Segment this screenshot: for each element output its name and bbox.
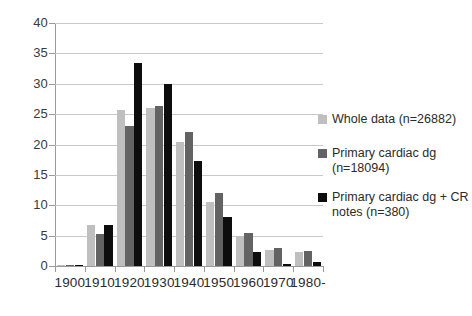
bar-group [263, 23, 293, 266]
bar-group [115, 23, 145, 266]
bar [304, 251, 312, 266]
bar [176, 142, 184, 266]
y-axis-tick-label: 0 [8, 259, 48, 272]
chart-legend: Whole data (n=26882) Primary cardiac dg … [318, 112, 470, 234]
x-axis-tick [234, 266, 235, 272]
bar [164, 84, 172, 266]
x-axis-tick [293, 266, 294, 272]
bar [265, 250, 273, 266]
legend-entry-whole-data: Whole data (n=26882) [318, 112, 470, 128]
bar-group [55, 23, 85, 266]
legend-entry-primary-cardiac-dg: Primary cardiac dg (n=18094) [318, 146, 470, 177]
legend-swatch-icon [318, 149, 327, 158]
bar [274, 248, 282, 266]
bar [134, 63, 142, 267]
y-axis-tick-label: 25 [8, 107, 48, 120]
bar-group [85, 23, 115, 266]
x-axis-tick [204, 266, 205, 272]
bar [236, 236, 244, 266]
x-axis-tick [323, 266, 324, 272]
legend-swatch-icon [318, 193, 327, 202]
bar [66, 265, 74, 266]
x-axis-tick [144, 266, 145, 272]
legend-label: Primary cardiac dg [332, 146, 436, 160]
bar [313, 262, 321, 266]
legend-label: Whole data (n=26882) [332, 112, 456, 126]
x-axis-tick [55, 266, 56, 272]
bar [117, 110, 125, 266]
bar [146, 108, 154, 266]
bar [223, 217, 231, 266]
y-axis-tick-label: 5 [8, 229, 48, 242]
gridline [55, 266, 323, 267]
bar [253, 252, 261, 266]
y-axis-tick-label: 20 [8, 138, 48, 151]
x-axis-tick-label: 1980- [289, 275, 327, 291]
bar [215, 193, 223, 266]
legend-label-line2: (n=18094) [332, 161, 470, 177]
x-axis-tick [263, 266, 264, 272]
bar-group [144, 23, 174, 266]
bar [125, 126, 133, 266]
y-axis-tick-label: 30 [8, 77, 48, 90]
legend-entry-primary-cardiac-dg-cr-notes: Primary cardiac dg + CR notes (n=380) [318, 190, 470, 221]
bar [283, 264, 291, 266]
bar [96, 234, 104, 266]
bar [104, 225, 112, 266]
bar [185, 132, 193, 266]
bar [87, 225, 95, 266]
bar [155, 106, 163, 266]
x-axis-tick [85, 266, 86, 272]
bar-group [174, 23, 204, 266]
plot-area [55, 23, 323, 266]
bar [75, 265, 83, 266]
bar [244, 233, 252, 266]
legend-swatch-icon [318, 115, 327, 124]
legend-label-line2: notes (n=380) [332, 205, 470, 221]
bar [57, 265, 65, 266]
bar-chart: 0510152025303540 19001910192019301940195… [0, 0, 472, 316]
y-axis-tick-label: 40 [8, 16, 48, 29]
bar [206, 202, 214, 266]
x-axis-tick [115, 266, 116, 272]
y-axis-tick-label: 35 [8, 46, 48, 59]
bar [295, 252, 303, 266]
bar [194, 161, 202, 266]
bar-group [204, 23, 234, 266]
y-axis-tick-label: 15 [8, 168, 48, 181]
x-axis-tick [174, 266, 175, 272]
y-axis-tick-label: 10 [8, 198, 48, 211]
bar-group [234, 23, 264, 266]
legend-label: Primary cardiac dg + CR [332, 190, 469, 204]
